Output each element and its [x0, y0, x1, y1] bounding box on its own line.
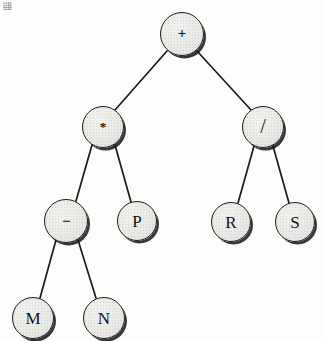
- tree-node-label-n1: *: [100, 120, 107, 133]
- tree-edge-n0-n2: [197, 51, 251, 110]
- tree-node-n2[interactable]: /: [242, 106, 284, 148]
- tree-node-n7[interactable]: M: [12, 297, 54, 339]
- tree-node-label-n7: M: [25, 310, 40, 327]
- tree-node-label-n6: S: [290, 214, 299, 231]
- tree-edge-n2-n6: [273, 146, 289, 203]
- tree-node-n3[interactable]: −: [44, 199, 88, 243]
- tree-node-n5[interactable]: R: [211, 202, 251, 242]
- tree-edge-n1-n4: [115, 145, 131, 202]
- tree-node-label-n2: /: [260, 116, 266, 136]
- tree-node-label-n5: R: [225, 214, 236, 231]
- tree-edge-n3-n7: [40, 240, 56, 298]
- tree-edge-n2-n5: [238, 146, 254, 203]
- tree-node-label-n3: −: [62, 214, 70, 229]
- tree-node-n6[interactable]: S: [275, 202, 315, 242]
- tree-node-n8[interactable]: N: [83, 297, 125, 339]
- tree-edge-n3-n8: [78, 240, 96, 298]
- tree-node-label-n4: P: [132, 213, 141, 230]
- tree-edge-layer: [0, 0, 324, 341]
- tree-node-n0[interactable]: +: [160, 12, 204, 56]
- tree-edge-n0-n1: [115, 51, 167, 110]
- tree-node-label-n8: N: [98, 310, 110, 327]
- tree-node-label-n0: +: [178, 26, 187, 41]
- tree-edge-n1-n3: [76, 145, 92, 201]
- expression-tree-figure: +*/−PRSMN: [0, 0, 324, 341]
- tree-node-n1[interactable]: *: [82, 106, 124, 148]
- tree-node-n4[interactable]: P: [117, 201, 157, 241]
